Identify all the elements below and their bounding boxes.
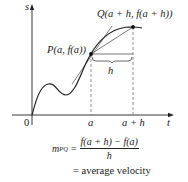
tick-label-a: a bbox=[88, 117, 93, 128]
tick-label-a-plus-h: a + h bbox=[122, 117, 145, 128]
point-q-name: Q bbox=[97, 8, 105, 19]
point-q-label: Q(a + h, f(a + h)) bbox=[97, 8, 172, 19]
formula-denominator: h bbox=[107, 149, 112, 161]
point-q-marker bbox=[131, 25, 135, 29]
x-axis-label: t bbox=[167, 117, 170, 128]
y-axis-arrow-icon bbox=[30, 4, 34, 10]
point-p-label: P(a, f(a)) bbox=[47, 44, 86, 55]
slope-formula: mPQ = f(a + h) − f(a) h bbox=[52, 136, 139, 161]
position-curve bbox=[32, 27, 142, 115]
formula-equals: = bbox=[71, 143, 77, 154]
formula-fraction: f(a + h) − f(a) h bbox=[80, 136, 139, 161]
point-q-coords: (a + h, f(a + h)) bbox=[105, 8, 173, 19]
secant-line-pq bbox=[91, 27, 133, 54]
formula-numerator: f(a + h) − f(a) bbox=[80, 136, 139, 149]
interval-h-label: h bbox=[108, 65, 113, 76]
point-p-coords: (a, f(a)) bbox=[53, 44, 86, 55]
point-p-marker bbox=[89, 52, 93, 56]
formula-lhs-subscript: PQ bbox=[59, 145, 68, 152]
h-brace bbox=[92, 57, 132, 63]
origin-label: 0 bbox=[24, 117, 29, 128]
formula-result: = average velocity bbox=[73, 165, 151, 176]
y-axis-label: s bbox=[25, 1, 29, 12]
